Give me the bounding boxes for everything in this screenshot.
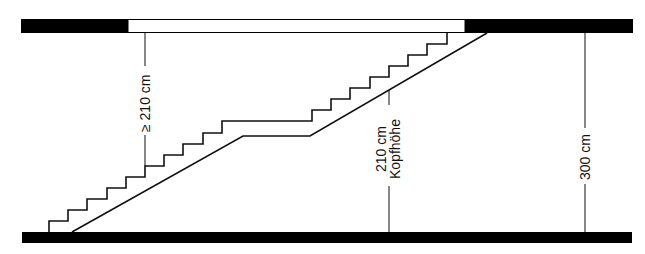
floor-slab [22,232,632,243]
floor-height-label: 300 cm [577,134,593,180]
ceiling-slab-left [21,19,128,33]
min-headroom-label: ≥ 210 cm [137,75,153,132]
ceiling-slab-right [465,19,633,33]
ceiling-opening [128,20,465,33]
stair-underside [72,33,487,232]
stair-diagram: ≥ 210 cm 210 cm Kopfhöhe 300 cm [0,0,645,254]
headroom-term-label: Kopfhöhe [387,119,403,179]
